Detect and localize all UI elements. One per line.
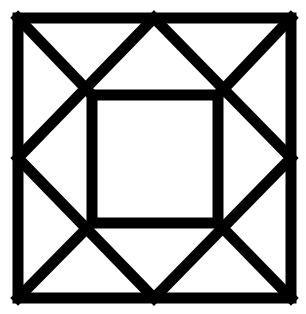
diagonal-top-left <box>18 18 92 95</box>
diagonal-bottom-left <box>18 223 92 298</box>
quilt-block-diagram <box>0 0 306 314</box>
diagonal-top-right <box>218 18 291 95</box>
inner-square <box>92 95 218 223</box>
quilt-block-svg <box>0 0 306 314</box>
diagonal-bottom-right <box>218 223 291 298</box>
